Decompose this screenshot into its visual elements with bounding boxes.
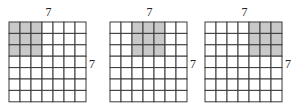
grid-cell [110, 22, 121, 33]
grid-cell [165, 22, 176, 33]
grid-cell [205, 90, 216, 101]
grid-cell [227, 33, 238, 44]
grid-cell [227, 79, 238, 90]
shaded-cell [249, 45, 260, 56]
grid-cell [110, 90, 121, 101]
shaded-cell [260, 22, 271, 33]
grid-cell [143, 90, 154, 101]
grid-cell [53, 90, 64, 101]
grid-cell [205, 33, 216, 44]
grid-cell [42, 90, 53, 101]
grid-cell [260, 79, 271, 90]
grid-cell [31, 90, 42, 101]
grid-1: 77 [9, 5, 95, 102]
grid-cell [110, 56, 121, 67]
top-dimension-label: 7 [147, 5, 153, 19]
shaded-cell [132, 22, 143, 33]
grid-cell [20, 79, 31, 90]
grid-cell [216, 90, 227, 101]
grid-cell [238, 90, 249, 101]
grid-cell [216, 22, 227, 33]
grid-cell [205, 79, 216, 90]
shaded-cell [260, 33, 271, 44]
grid-cell [42, 22, 53, 33]
grid-cell [121, 45, 132, 56]
grid-cell [9, 90, 20, 101]
grid-cell [227, 45, 238, 56]
shaded-cell [20, 45, 31, 56]
grid-cell [31, 56, 42, 67]
grid-cell [64, 56, 75, 67]
grid-figures: 777777 [0, 0, 298, 110]
grid-cell [75, 79, 86, 90]
grid-cell [154, 68, 165, 79]
shaded-cell [132, 33, 143, 44]
grid-cell [53, 45, 64, 56]
grid-cell [165, 68, 176, 79]
grid-cell [31, 79, 42, 90]
grid-3: 77 [205, 5, 291, 102]
grid-cell [132, 79, 143, 90]
grid-cell [143, 56, 154, 67]
top-dimension-label: 7 [242, 5, 248, 19]
shaded-cell [249, 33, 260, 44]
grid-cell [154, 79, 165, 90]
grid-cell [238, 22, 249, 33]
grid-cell [260, 56, 271, 67]
grid-cell [42, 68, 53, 79]
grid-cell [75, 56, 86, 67]
grid-cell [64, 90, 75, 101]
shaded-cell [143, 33, 154, 44]
grid-cell [20, 68, 31, 79]
grid-cell [249, 68, 260, 79]
grid-cell [249, 56, 260, 67]
grid-cell [154, 90, 165, 101]
grid-cell [238, 33, 249, 44]
shaded-cell [20, 33, 31, 44]
side-dimension-label: 7 [285, 57, 291, 71]
shaded-cell [249, 22, 260, 33]
grid-cell [165, 45, 176, 56]
shaded-cell [154, 22, 165, 33]
grid-cell [64, 33, 75, 44]
grid-cell [132, 68, 143, 79]
grid-cell [75, 22, 86, 33]
grid-cell [216, 79, 227, 90]
shaded-cell [9, 33, 20, 44]
grid-cell [31, 68, 42, 79]
grid-cell [238, 56, 249, 67]
grid-cell [110, 45, 121, 56]
shaded-cell [143, 45, 154, 56]
grid-cell [227, 68, 238, 79]
grid-cell [216, 56, 227, 67]
grid-cell [20, 90, 31, 101]
grid-cell [205, 68, 216, 79]
grid-cell [121, 22, 132, 33]
grid-cell [165, 33, 176, 44]
grid-2: 77 [110, 5, 196, 102]
shaded-cell [154, 45, 165, 56]
grid-cell [75, 90, 86, 101]
grid-cell [205, 45, 216, 56]
grid-cell [20, 56, 31, 67]
grid-cell [176, 90, 187, 101]
shaded-cell [154, 33, 165, 44]
grid-cell [216, 68, 227, 79]
grid-cell [165, 90, 176, 101]
grid-cell [143, 79, 154, 90]
grid-cell [9, 79, 20, 90]
grid-cell [205, 56, 216, 67]
grid-cell [249, 79, 260, 90]
shaded-cell [31, 22, 42, 33]
grid-cell [42, 33, 53, 44]
grid-cell [64, 79, 75, 90]
grid-cell [121, 56, 132, 67]
grid-cell [165, 79, 176, 90]
grid-cell [42, 45, 53, 56]
grid-cell [53, 56, 64, 67]
grid-cell [154, 56, 165, 67]
grid-cell [227, 56, 238, 67]
grid-cell [176, 45, 187, 56]
grid-cell [53, 33, 64, 44]
shaded-cell [143, 22, 154, 33]
